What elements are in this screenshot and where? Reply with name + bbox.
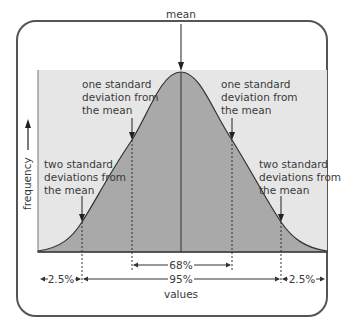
y-axis-label: frequency <box>21 157 33 210</box>
range-right-tail-label: 2.5% <box>289 273 316 285</box>
arrowhead <box>40 277 45 282</box>
two-sd-right-label-1: two standard <box>259 158 328 170</box>
arrowhead <box>320 277 325 282</box>
two-sd-left-label-1: two standard <box>44 158 113 170</box>
one-sd-left-label-3: the mean <box>82 104 132 116</box>
two-sd-right-label-3: the mean <box>259 184 309 196</box>
two-sd-left-label-3: the mean <box>44 184 94 196</box>
range-68-label: 68% <box>169 259 192 271</box>
mean-label: mean <box>166 8 196 20</box>
two-sd-right-label-2: deviations from <box>259 171 341 183</box>
x-axis-label: values <box>164 288 198 300</box>
one-sd-left-label-2: deviation from <box>82 91 159 103</box>
two-sd-left-label-2: deviations from <box>44 171 126 183</box>
arrowhead <box>226 263 231 268</box>
one-sd-right-label-1: one standard <box>221 78 290 90</box>
arrowhead <box>133 263 138 268</box>
arrowhead <box>76 277 81 282</box>
arrowhead <box>25 119 31 128</box>
arrowhead <box>275 277 280 282</box>
bell-curve-diagram: mean one standard deviation from the mea… <box>0 0 349 325</box>
one-sd-left-label-1: one standard <box>82 78 151 90</box>
arrowhead <box>83 277 88 282</box>
mean-arrowhead <box>178 62 184 71</box>
one-sd-right-label-3: the mean <box>221 104 271 116</box>
range-left-tail-label: 2.5% <box>48 273 75 285</box>
arrowhead <box>282 277 287 282</box>
one-sd-right-label-2: deviation from <box>221 91 298 103</box>
range-95-label: 95% <box>169 273 192 285</box>
